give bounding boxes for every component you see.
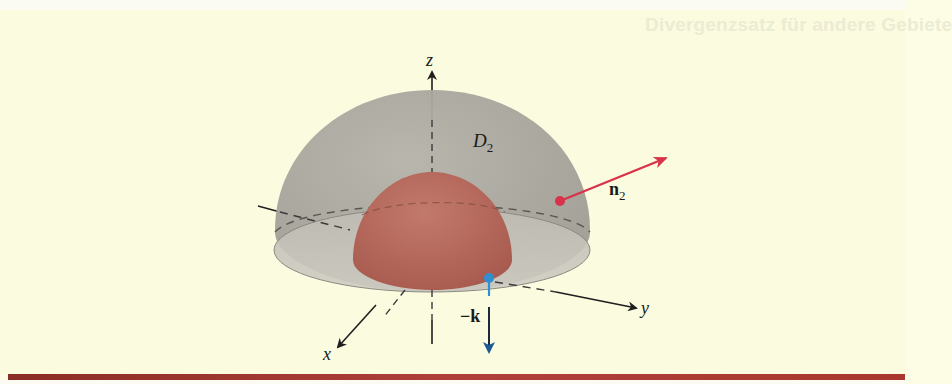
z-axis-label: z	[426, 50, 433, 71]
x-axis	[338, 305, 376, 347]
y-axis-label: y	[641, 298, 649, 319]
n2-base-point	[555, 196, 565, 206]
y-axis	[556, 292, 636, 308]
region-label-d2: D2	[473, 130, 493, 152]
n2-label: n2	[609, 179, 626, 200]
neg-k-label: −k	[460, 306, 480, 327]
x-axis-label: x	[323, 344, 331, 365]
bottom-margin	[0, 380, 905, 384]
